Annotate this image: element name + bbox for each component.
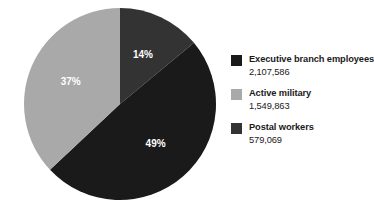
- legend-text-group: Executive branch employees 2,107,586: [249, 54, 374, 78]
- legend-value-postal-workers: 579,069: [249, 135, 314, 146]
- legend-label-executive-branch-employees: Executive branch employees: [249, 54, 374, 65]
- legend-item-active-military[interactable]: Active military 1,549,863: [231, 88, 365, 112]
- legend-label-postal-workers: Postal workers: [249, 122, 314, 133]
- legend-swatch-icon-executive-branch-employees: [231, 55, 242, 66]
- legend-text-group: Active military 1,549,863: [249, 88, 311, 112]
- pie-slice-label-executive-branch-employees: 49%: [146, 138, 166, 149]
- pie-chart: 14% 49% 37%: [22, 5, 220, 204]
- chart-legend: Executive branch employees 2,107,586 Act…: [231, 54, 365, 146]
- legend-item-postal-workers[interactable]: Postal workers 579,069: [231, 122, 365, 146]
- pie-slice-label-postal-workers: 14%: [133, 49, 153, 60]
- legend-text-group: Postal workers 579,069: [249, 122, 314, 146]
- legend-item-executive-branch-employees[interactable]: Executive branch employees 2,107,586: [231, 54, 365, 78]
- legend-swatch-icon-active-military: [231, 89, 242, 100]
- legend-swatch-icon-postal-workers: [231, 123, 242, 134]
- legend-value-executive-branch-employees: 2,107,586: [249, 67, 374, 78]
- pie-slice-label-active-military: 37%: [61, 76, 81, 87]
- legend-value-active-military: 1,549,863: [249, 101, 311, 112]
- legend-label-active-military: Active military: [249, 88, 311, 99]
- pie-svg: 14% 49% 37%: [22, 5, 220, 204]
